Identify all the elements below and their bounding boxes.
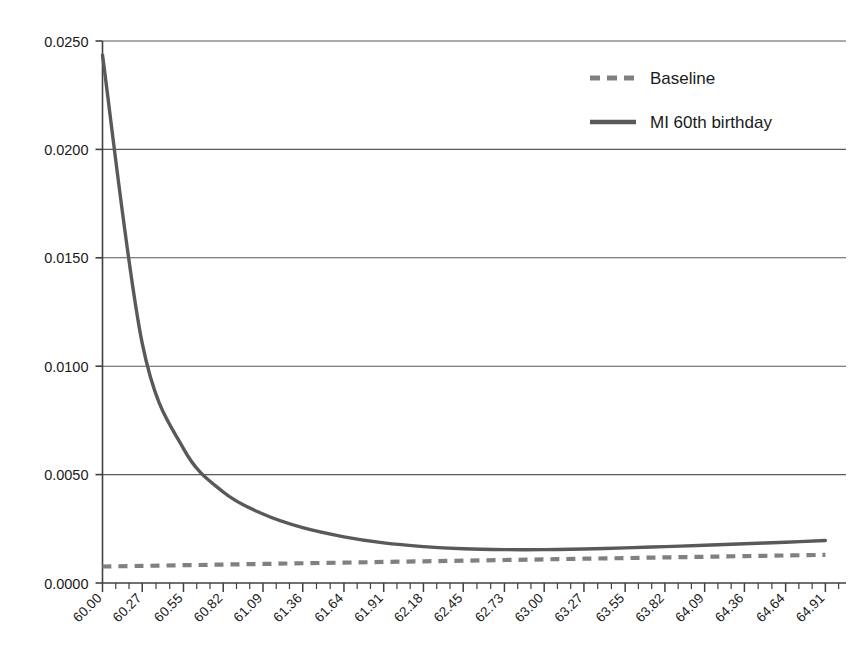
chart-container: 0.02500.02000.01500.01000.00500.0000 60.… [0,0,868,663]
y-axis-tick-label: 0.0100 [44,359,88,375]
y-axis-tick-label: 0.0050 [44,467,88,483]
line-chart: 0.02500.02000.01500.01000.00500.0000 60.… [0,0,868,663]
y-axis-tick-label: 0.0000 [44,576,88,592]
y-axis-tick-label: 0.0200 [44,142,88,158]
chart-background [0,0,868,663]
legend-label: Baseline [650,69,715,88]
legend-label: MI 60th birthday [650,113,772,132]
y-axis-tick-label: 0.0250 [44,34,88,50]
y-axis-tick-label: 0.0150 [44,250,88,266]
